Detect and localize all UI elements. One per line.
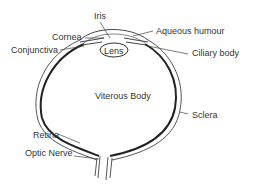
optic-nerve-shape — [95, 156, 112, 180]
label-ciliary-body: Ciliary body — [192, 48, 239, 58]
label-vitreous-body: Viterous Body — [95, 91, 151, 101]
label-iris: Iris — [94, 11, 106, 21]
label-aqueous-humour: Aqueous humour — [156, 26, 225, 36]
label-retina: Retina — [33, 130, 59, 140]
label-sclera: Sclera — [192, 110, 218, 120]
label-cornea: Cornea — [52, 32, 82, 42]
label-conjunctiva: Conjunctiva — [11, 45, 58, 55]
label-optic-nerve: Optic Nerve — [25, 148, 73, 158]
label-lens: Lens — [104, 46, 124, 56]
